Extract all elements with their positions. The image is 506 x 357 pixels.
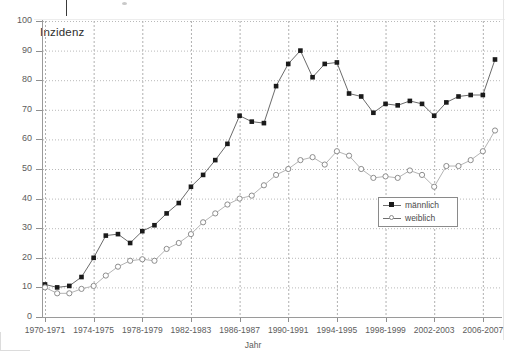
data-point-weiblich bbox=[42, 285, 47, 290]
data-point-maennlich bbox=[298, 48, 303, 53]
data-point-weiblich bbox=[79, 286, 84, 291]
data-point-maennlich bbox=[116, 232, 121, 237]
data-point-weiblich bbox=[395, 175, 400, 180]
y-axis-tick bbox=[36, 51, 42, 52]
data-point-maennlich bbox=[395, 103, 400, 108]
scan-artifact-dot bbox=[122, 2, 127, 5]
x-axis-tick bbox=[288, 318, 289, 322]
legend-label-weiblich: weiblich bbox=[405, 213, 435, 223]
x-axis-tick bbox=[386, 318, 387, 322]
series-line-maennlich bbox=[45, 51, 495, 288]
x-axis-tick bbox=[483, 318, 484, 322]
data-point-weiblich bbox=[176, 240, 181, 245]
page-border-right bbox=[503, 0, 504, 340]
y-axis-tick-label: 90 bbox=[2, 46, 32, 55]
x-axis-tick bbox=[240, 318, 241, 322]
x-axis-tick-label: 1990-1991 bbox=[265, 325, 311, 335]
y-axis-tick-label: 40 bbox=[2, 194, 32, 203]
data-point-maennlich bbox=[201, 173, 206, 178]
y-axis-tick bbox=[36, 21, 42, 22]
scan-artifact-vertical-mark bbox=[66, 0, 67, 16]
x-axis-tick-label: 2006-2007 bbox=[460, 325, 506, 335]
x-axis-tick-label: 2002-2003 bbox=[411, 325, 457, 335]
data-point-maennlich bbox=[189, 184, 194, 189]
data-point-maennlich bbox=[335, 60, 340, 65]
data-point-maennlich bbox=[444, 100, 449, 105]
legend-item-weiblich: weiblich bbox=[383, 212, 435, 224]
data-point-weiblich bbox=[432, 184, 437, 189]
x-axis-tick-label: 1982-1983 bbox=[168, 325, 214, 335]
data-point-weiblich bbox=[55, 291, 60, 296]
data-point-weiblich bbox=[286, 166, 291, 171]
data-point-maennlich bbox=[249, 119, 254, 124]
data-point-weiblich bbox=[444, 163, 449, 168]
data-point-maennlich bbox=[383, 102, 388, 107]
x-axis-title: Jahr bbox=[0, 340, 506, 350]
y-axis-tick-label: 10 bbox=[2, 282, 32, 291]
chart-legend: männlich weiblich bbox=[378, 197, 458, 227]
x-axis-tick bbox=[337, 318, 338, 322]
data-point-weiblich bbox=[334, 149, 339, 154]
y-axis-tick bbox=[36, 139, 42, 140]
x-axis-tick-label: 1974-1975 bbox=[71, 325, 117, 335]
y-axis-tick-label: 30 bbox=[2, 223, 32, 232]
data-point-weiblich bbox=[140, 257, 145, 262]
x-axis-tick-label: 1994-1995 bbox=[314, 325, 360, 335]
data-point-maennlich bbox=[79, 275, 84, 280]
x-axis-line bbox=[42, 317, 502, 318]
x-axis-tick bbox=[142, 318, 143, 322]
data-point-weiblich bbox=[456, 163, 461, 168]
data-point-weiblich bbox=[152, 258, 157, 263]
legend-label-maennlich: männlich bbox=[405, 200, 439, 210]
y-axis-tick bbox=[36, 287, 42, 288]
x-axis-tick bbox=[191, 318, 192, 322]
y-axis-tick-label: 60 bbox=[2, 134, 32, 143]
data-point-weiblich bbox=[103, 273, 108, 278]
legend-marker-filled-square-icon bbox=[383, 205, 401, 206]
y-axis-tick bbox=[36, 199, 42, 200]
plot-area bbox=[43, 21, 501, 317]
data-point-weiblich bbox=[371, 175, 376, 180]
data-point-maennlich bbox=[432, 113, 437, 118]
data-point-weiblich bbox=[213, 211, 218, 216]
x-axis-tick-label: 1998-1999 bbox=[363, 325, 409, 335]
data-point-weiblich bbox=[480, 149, 485, 154]
data-point-weiblich bbox=[225, 202, 230, 207]
y-axis-tick bbox=[36, 258, 42, 259]
y-axis-tick-label: 50 bbox=[2, 164, 32, 173]
data-point-weiblich bbox=[128, 258, 133, 263]
data-point-weiblich bbox=[383, 174, 388, 179]
data-series-layer bbox=[43, 21, 501, 317]
data-point-maennlich bbox=[128, 241, 133, 246]
data-point-weiblich bbox=[188, 232, 193, 237]
data-point-maennlich bbox=[468, 93, 473, 98]
data-point-maennlich bbox=[237, 113, 242, 118]
y-axis-tick-label: 20 bbox=[2, 253, 32, 262]
data-point-weiblich bbox=[346, 153, 351, 158]
legend-item-maennlich: männlich bbox=[383, 199, 439, 211]
data-point-maennlich bbox=[420, 102, 425, 107]
x-axis-tick bbox=[45, 318, 46, 322]
y-axis-tick bbox=[36, 169, 42, 170]
data-point-weiblich bbox=[492, 128, 497, 133]
data-point-maennlich bbox=[176, 201, 181, 206]
scan-artifact-top-rule bbox=[34, 19, 505, 20]
data-point-maennlich bbox=[91, 256, 96, 261]
data-point-weiblich bbox=[322, 162, 327, 167]
x-axis-tick bbox=[94, 318, 95, 322]
data-point-maennlich bbox=[286, 62, 291, 67]
data-point-weiblich bbox=[359, 166, 364, 171]
data-point-weiblich bbox=[419, 172, 424, 177]
y-axis-tick bbox=[36, 80, 42, 81]
data-point-weiblich bbox=[261, 183, 266, 188]
legend-marker-open-circle-icon bbox=[383, 218, 401, 219]
data-point-maennlich bbox=[164, 211, 169, 216]
y-axis-tick bbox=[36, 110, 42, 111]
data-point-maennlich bbox=[152, 223, 157, 228]
data-point-maennlich bbox=[456, 94, 461, 99]
data-point-maennlich bbox=[359, 94, 364, 99]
data-point-maennlich bbox=[371, 110, 376, 115]
data-point-maennlich bbox=[408, 99, 413, 104]
x-axis-tick-label: 1970-1971 bbox=[22, 325, 68, 335]
data-point-weiblich bbox=[407, 168, 412, 173]
